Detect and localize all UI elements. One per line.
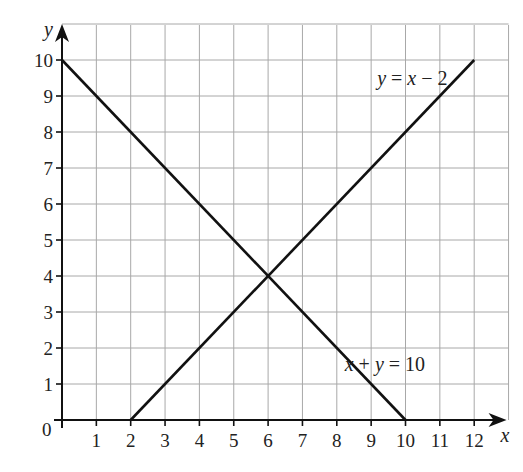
x-tick-label: 9	[366, 430, 376, 451]
y-tick-label: 1	[44, 374, 54, 395]
x-tick-label: 4	[195, 430, 205, 451]
x-tick-label: 10	[396, 430, 415, 451]
series-label-1: y = x − 2	[375, 67, 447, 90]
x-tick-label: 3	[160, 430, 170, 451]
y-tick-label: 7	[44, 158, 54, 179]
y-tick-label: 6	[44, 194, 54, 215]
y-tick-label: 3	[44, 302, 54, 323]
y-tick-label: 8	[44, 122, 54, 143]
series-label-2: x + y = 10	[344, 353, 425, 376]
origin-label: 0	[42, 419, 52, 440]
y-tick-label: 2	[44, 338, 54, 359]
x-tick-label: 6	[263, 430, 273, 451]
x-tick-label: 11	[431, 430, 449, 451]
y-tick-label: 10	[34, 50, 53, 71]
y-axis-label: y	[42, 18, 53, 41]
chart: 12345678910111212345678910 y = x − 2x + …	[0, 0, 523, 472]
ticks: 12345678910111212345678910	[34, 50, 484, 451]
x-tick-label: 7	[298, 430, 308, 451]
x-tick-label: 5	[229, 430, 239, 451]
x-tick-label: 12	[465, 430, 484, 451]
x-axis-label: x	[500, 424, 510, 446]
y-tick-label: 5	[44, 230, 54, 251]
x-tick-label: 2	[126, 430, 136, 451]
y-tick-label: 4	[44, 266, 54, 287]
y-tick-label: 9	[44, 86, 54, 107]
x-tick-label: 1	[92, 430, 102, 451]
x-tick-label: 8	[332, 430, 342, 451]
